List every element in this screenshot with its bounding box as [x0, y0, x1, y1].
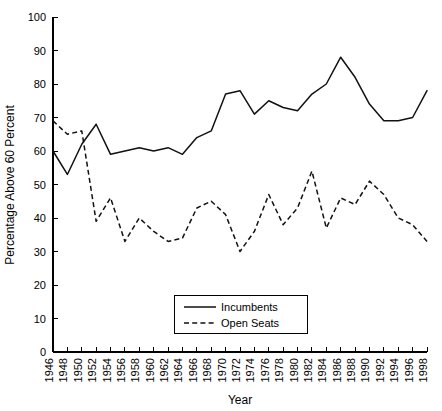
x-tick-label: 1966 — [187, 358, 199, 382]
x-tick-label: 1988 — [345, 358, 357, 382]
x-tick-label: 1968 — [201, 358, 213, 382]
y-tick-label: 0 — [40, 346, 46, 358]
x-tick-label: 1998 — [417, 358, 429, 382]
x-tick-label: 1962 — [158, 358, 170, 382]
x-tick-label: 1984 — [316, 358, 328, 382]
x-tick-label: 1992 — [374, 358, 386, 382]
x-tick-label: 1976 — [259, 358, 271, 382]
y-tick-label: 20 — [34, 279, 46, 291]
x-tick-label: 1964 — [172, 358, 184, 382]
x-tick-label: 1970 — [216, 358, 228, 382]
x-tick-label: 1956 — [115, 358, 127, 382]
legend-label-incumbents: Incumbents — [221, 301, 278, 313]
x-tick-label: 1980 — [288, 358, 300, 382]
y-tick-label: 30 — [34, 246, 46, 258]
x-axis: 1946194819501952195419561958196019621964… — [43, 347, 429, 382]
y-tick-label: 40 — [34, 212, 46, 224]
x-tick-label: 1952 — [86, 358, 98, 382]
x-tick-label: 1986 — [331, 358, 343, 382]
x-tick-label: 1994 — [388, 358, 400, 382]
legend-label-open-seats: Open Seats — [221, 317, 280, 329]
y-tick-label: 10 — [34, 313, 46, 325]
y-tick-label: 90 — [34, 45, 46, 57]
x-tick-label: 1946 — [43, 358, 55, 382]
y-tick-label: 100 — [28, 11, 46, 23]
y-axis: 0102030405060708090100 — [28, 11, 58, 358]
line-chart: 0102030405060708090100 19461948195019521… — [0, 0, 442, 411]
x-tick-label: 1974 — [244, 358, 256, 382]
x-tick-label: 1990 — [359, 358, 371, 382]
x-tick-label: 1978 — [273, 358, 285, 382]
x-tick-label: 1948 — [57, 358, 69, 382]
x-tick-label: 1972 — [230, 358, 242, 382]
x-tick-label: 1954 — [101, 358, 113, 382]
y-tick-label: 70 — [34, 112, 46, 124]
y-tick-label: 60 — [34, 145, 46, 157]
x-tick-label: 1996 — [403, 358, 415, 382]
x-tick-label: 1958 — [129, 358, 141, 382]
chart-legend: IncumbentsOpen Seats — [174, 295, 307, 333]
x-tick-label: 1960 — [144, 358, 156, 382]
y-axis-title: Percentage Above 60 Percent — [3, 105, 17, 265]
series-line-incumbents — [53, 57, 427, 174]
series-line-open-seats — [53, 121, 427, 252]
x-axis-title: Year — [228, 393, 252, 407]
x-tick-label: 1982 — [302, 358, 314, 382]
y-tick-label: 80 — [34, 78, 46, 90]
y-tick-label: 50 — [34, 179, 46, 191]
data-series-group — [53, 57, 427, 251]
x-tick-label: 1950 — [72, 358, 84, 382]
chart-container: 0102030405060708090100 19461948195019521… — [0, 0, 442, 411]
